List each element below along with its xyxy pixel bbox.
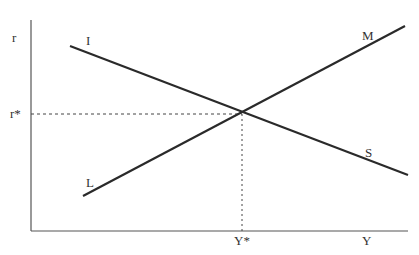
- lm-curve: [83, 26, 405, 196]
- y-axis-label: r: [12, 30, 17, 45]
- r-star-label: r*: [10, 106, 21, 121]
- is-curve: [70, 46, 408, 175]
- is-lm-diagram: r r* Y* Y I S L M: [0, 0, 419, 255]
- lm-start-label: L: [86, 175, 94, 190]
- lm-end-label: M: [362, 28, 374, 43]
- y-star-label: Y*: [234, 233, 250, 248]
- is-end-label: S: [365, 145, 372, 160]
- is-start-label: I: [86, 33, 90, 48]
- x-axis-label: Y: [362, 233, 372, 248]
